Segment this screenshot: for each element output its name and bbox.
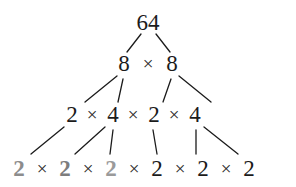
edge-left8-to-2	[85, 76, 117, 102]
tree-node-value: 2	[151, 157, 163, 180]
edge-64-to-right-8	[156, 34, 170, 52]
factor-tree-figure: 6488×2424×××222222×××××	[0, 0, 296, 187]
edge-4a-to-leaf2	[75, 127, 105, 154]
tree-node-value: 4	[189, 103, 201, 126]
tree-node-value: 4	[107, 103, 119, 126]
tree-node-value: 2	[66, 103, 78, 126]
edge-64-to-left-8	[127, 34, 141, 52]
tree-node-value: 2	[13, 157, 25, 180]
multiplication-sign-icon: ×	[37, 159, 48, 178]
multiplication-sign-icon: ×	[128, 105, 139, 124]
edge-right8-to-4	[179, 76, 211, 102]
tree-node-value: 2	[197, 157, 209, 180]
edge-2b-to-leaf4	[153, 130, 157, 154]
tree-node-value: 2	[59, 157, 71, 180]
edge-2a-to-leaf1	[31, 127, 64, 154]
multiplication-sign-icon: ×	[221, 159, 232, 178]
edge-right8-to-2	[163, 79, 171, 102]
multiplication-sign-icon: ×	[143, 54, 154, 73]
multiplication-sign-icon: ×	[83, 159, 94, 178]
tree-node-value: 8	[118, 52, 130, 75]
tree-node-value: 8	[166, 52, 178, 75]
edge-4b-to-leaf6	[204, 127, 238, 154]
tree-node-value: 2	[243, 157, 255, 180]
multiplication-sign-icon: ×	[175, 159, 186, 178]
multiplication-sign-icon: ×	[169, 105, 180, 124]
tree-node-value: 2	[105, 157, 117, 180]
tree-node-value: 2	[148, 103, 160, 126]
multiplication-sign-icon: ×	[129, 159, 140, 178]
edge-left8-to-4	[118, 79, 123, 102]
tree-node-value: 64	[137, 11, 160, 34]
multiplication-sign-icon: ×	[87, 105, 98, 124]
edge-4a-to-leaf3	[110, 130, 113, 154]
